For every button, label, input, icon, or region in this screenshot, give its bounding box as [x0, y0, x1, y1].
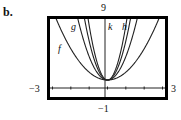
curve-label-k: k	[108, 21, 113, 32]
curve-g	[53, 0, 163, 80]
curve-label-f: f	[58, 43, 62, 54]
curve-label-h: h	[122, 21, 127, 32]
curve-label-g: g	[71, 21, 76, 32]
curve-k	[53, 0, 163, 80]
parabola-curves	[53, 0, 163, 80]
curve-h	[53, 0, 163, 80]
graph-window: f g k h	[0, 0, 181, 120]
